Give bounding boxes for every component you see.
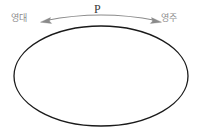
figure-canvas: 영대 P 영주	[0, 0, 202, 135]
arrow-head-right-icon	[150, 18, 161, 24]
curved-arrow-line	[46, 15, 156, 21]
ellipse-shape	[14, 26, 188, 126]
label-right-endpoint: 영주	[161, 14, 177, 23]
label-arrow-p: P	[94, 3, 101, 15]
arrow-head-left-icon	[41, 18, 52, 24]
label-left-endpoint: 영대	[11, 14, 27, 23]
